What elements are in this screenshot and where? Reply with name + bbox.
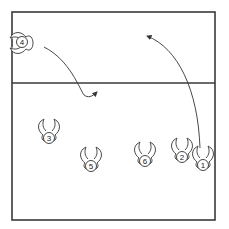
player-2-label: 2: [180, 153, 185, 162]
movement-arrow-1: [147, 36, 200, 148]
player-4-label: 4: [20, 38, 25, 47]
court-outline: [12, 12, 215, 220]
player-3-label: 3: [47, 134, 52, 143]
player-1-label: 1: [201, 161, 206, 170]
player-6-label: 6: [143, 157, 148, 166]
movement-arrow-4: [44, 47, 97, 97]
volleyball-diagram: 4 3 5 6 2 1: [0, 0, 229, 229]
player-5-label: 5: [89, 162, 94, 171]
